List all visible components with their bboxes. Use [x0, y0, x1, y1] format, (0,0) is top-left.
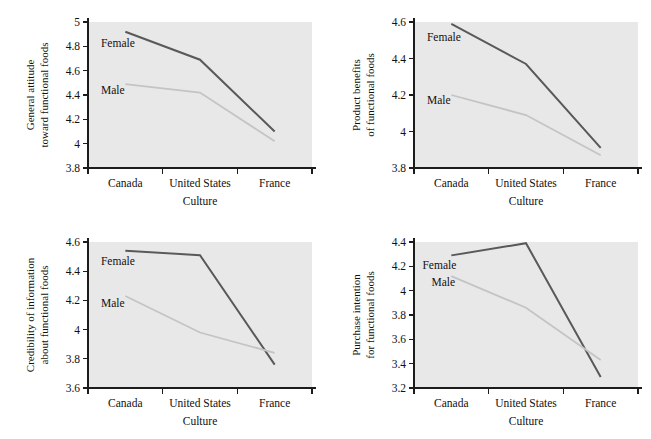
y-tick-label: 3.2 — [392, 382, 407, 394]
x-category-label: France — [259, 177, 290, 189]
y-tick-label: 4.6 — [392, 16, 407, 28]
y-tick-label: 4 — [74, 324, 80, 336]
x-category-label: France — [585, 177, 616, 189]
y-tick-label: 3.8 — [392, 162, 407, 174]
y-tick-label: 4.6 — [66, 236, 81, 248]
y-tick-label: 3.6 — [392, 333, 407, 345]
y-axis-title-line: of functional foods — [364, 53, 376, 137]
y-axis-title-line: about functional foods — [38, 266, 50, 365]
chart-panel-purchase-intention: 3.23.43.63.844.24.4CanadaUnited StatesFr… — [326, 220, 651, 439]
chart-panel-product-benefits: 3.844.24.44.6CanadaUnited StatesFranceCu… — [326, 0, 651, 219]
y-tick-label: 3.8 — [66, 353, 81, 365]
y-tick-label: 4.8 — [66, 40, 81, 52]
y-tick-label: 4 — [400, 126, 406, 138]
series-label-male: Male — [427, 94, 451, 106]
x-category-label: Canada — [434, 397, 468, 409]
y-tick-label: 4 — [400, 285, 406, 297]
y-tick-label: 3.8 — [392, 309, 407, 321]
plot-area-svg: 3.844.24.44.6CanadaUnited StatesFranceCu… — [326, 0, 651, 219]
y-tick-label: 4.2 — [392, 89, 407, 101]
x-axis-title: Culture — [509, 195, 544, 207]
y-axis-title-line: Product benefits — [350, 59, 362, 131]
y-tick-label: 4.4 — [66, 265, 81, 277]
plot-area-svg: 3.63.844.24.44.6CanadaUnited StatesFranc… — [0, 220, 325, 439]
y-tick-label: 4.2 — [66, 113, 81, 125]
x-axis-title: Culture — [183, 415, 218, 427]
series-label-female: Female — [427, 31, 461, 43]
series-label-male: Male — [431, 276, 455, 288]
x-category-label: Canada — [108, 177, 142, 189]
x-category-label: Canada — [434, 177, 468, 189]
x-category-label: United States — [169, 397, 231, 409]
plot-area-svg: 3.23.43.63.844.24.4CanadaUnited StatesFr… — [326, 220, 651, 439]
figure-canvas: 3.844.24.44.64.85CanadaUnited StatesFran… — [0, 0, 651, 439]
x-axis-title: Culture — [183, 195, 218, 207]
x-category-label: United States — [495, 397, 557, 409]
y-tick-label: 4 — [74, 138, 80, 150]
y-axis-title-line: toward functional foods — [38, 42, 50, 147]
chart-panel-general-attitude: 3.844.24.44.64.85CanadaUnited StatesFran… — [0, 0, 325, 219]
y-axis-title-line: Credibility of information — [24, 257, 36, 372]
y-tick-label: 4.6 — [66, 65, 81, 77]
plot-area-svg: 3.844.24.44.64.85CanadaUnited StatesFran… — [0, 0, 325, 219]
x-category-label: France — [259, 397, 290, 409]
x-category-label: Canada — [108, 397, 142, 409]
series-label-female: Female — [101, 255, 135, 267]
x-axis-title: Culture — [509, 415, 544, 427]
y-tick-label: 3.8 — [66, 162, 81, 174]
y-axis-title-line: Purchase intention — [350, 274, 362, 356]
series-label-female: Female — [422, 259, 456, 271]
y-tick-label: 4.4 — [392, 236, 407, 248]
y-tick-label: 4.2 — [66, 294, 81, 306]
y-tick-label: 5 — [74, 16, 80, 28]
series-label-male: Male — [101, 84, 125, 96]
y-axis-title-line: for functional foods — [364, 271, 376, 358]
x-category-label: France — [585, 397, 616, 409]
y-tick-label: 3.6 — [66, 382, 81, 394]
y-tick-label: 3.4 — [392, 358, 407, 370]
series-label-female: Female — [101, 37, 135, 49]
x-category-label: United States — [495, 177, 557, 189]
series-label-male: Male — [101, 297, 125, 309]
y-axis-title-line: General attitude — [24, 60, 36, 131]
y-tick-label: 4.4 — [392, 53, 407, 65]
y-tick-label: 4.2 — [392, 260, 407, 272]
y-tick-label: 4.4 — [66, 89, 81, 101]
x-category-label: United States — [169, 177, 231, 189]
chart-panel-credibility: 3.63.844.24.44.6CanadaUnited StatesFranc… — [0, 220, 325, 439]
